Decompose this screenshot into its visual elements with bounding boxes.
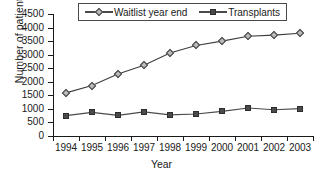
legend-label-transplants: Transplants [227, 7, 280, 18]
legend-item-transplants[interactable]: Transplants [199, 7, 280, 18]
y-tick-label: 0 [0, 131, 44, 141]
series-line-2 [66, 108, 300, 116]
x-axis-title: Year [0, 158, 323, 170]
series-line-1 [66, 33, 300, 93]
y-tick-label: 500 [0, 117, 44, 127]
x-tick [53, 137, 54, 141]
y-tick-label: 2500 [0, 63, 44, 73]
y-tick-label: 4000 [0, 23, 44, 33]
square-marker-icon [115, 112, 121, 118]
legend-label-waitlist: Waitlist year end [113, 7, 188, 18]
x-tick [235, 137, 236, 141]
x-tick [157, 137, 158, 141]
x-tick-label: 2003 [283, 142, 317, 153]
y-tick-label: 3000 [0, 50, 44, 60]
square-marker-icon [167, 112, 173, 118]
legend-line-icon [216, 11, 227, 12]
chart-container: Number of patients Year 0500100015002000… [0, 0, 323, 173]
square-marker-icon [89, 109, 95, 115]
legend-line-icon [199, 11, 210, 12]
square-marker-icon [193, 111, 199, 117]
y-tick-label: 2000 [0, 77, 44, 87]
square-marker-icon [271, 107, 277, 113]
y-tick-label: 3500 [0, 36, 44, 46]
chart-legend: Waitlist year end Transplants [78, 3, 287, 21]
y-tick-label: 1000 [0, 104, 44, 114]
x-tick [287, 137, 288, 141]
x-tick [261, 137, 262, 141]
x-tick [209, 137, 210, 141]
x-tick [313, 137, 314, 141]
y-tick-label: 1500 [0, 90, 44, 100]
x-tick [183, 137, 184, 141]
x-tick [105, 137, 106, 141]
diamond-marker-icon [95, 8, 103, 16]
x-tick [79, 137, 80, 141]
square-marker-icon [245, 105, 251, 111]
square-marker-icon [141, 109, 147, 115]
y-tick-label: 4500 [0, 9, 44, 19]
square-marker-icon [219, 108, 225, 114]
legend-item-waitlist[interactable]: Waitlist year end [85, 7, 188, 18]
square-marker-icon [297, 106, 303, 112]
plot-area [53, 14, 313, 136]
square-marker-icon [63, 113, 69, 119]
x-tick [131, 137, 132, 141]
